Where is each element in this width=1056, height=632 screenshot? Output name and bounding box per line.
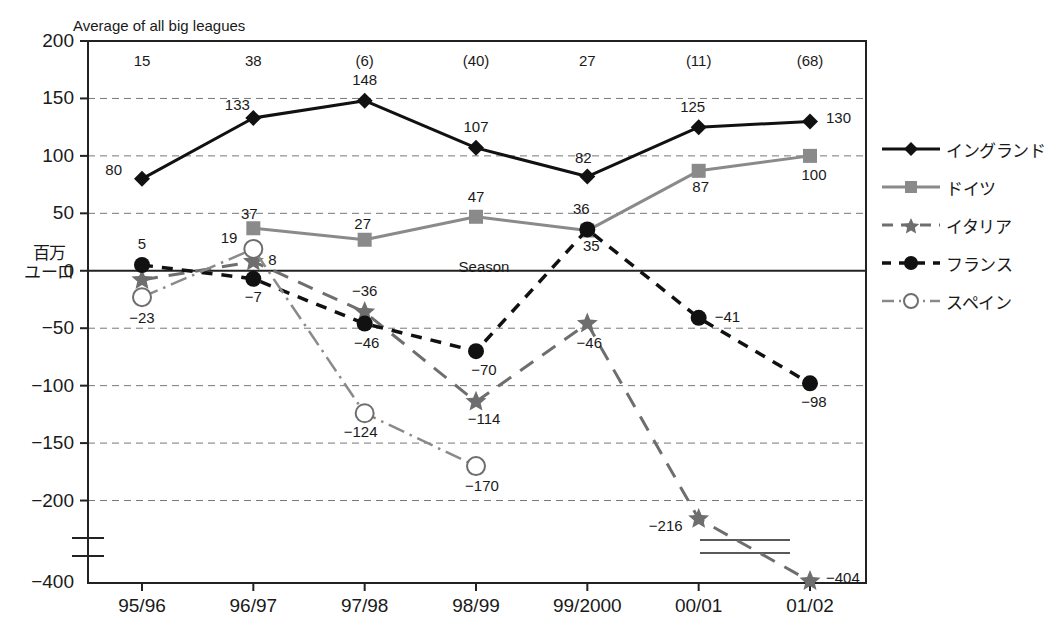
series-line-spain <box>142 249 476 466</box>
data-point-germany <box>692 164 706 178</box>
legend-sample-france <box>880 253 942 273</box>
data-label: −114 <box>468 410 501 427</box>
data-label: 133 <box>225 96 250 113</box>
data-label: −404 <box>826 569 860 586</box>
legend-label-spain: スペイン <box>946 289 1011 314</box>
data-label: 82 <box>575 149 592 166</box>
data-label: 37 <box>241 205 258 222</box>
y-tick-label: 200 <box>42 30 74 51</box>
data-point-spain <box>356 404 374 422</box>
data-point-italy <box>466 391 487 411</box>
legend-item-spain[interactable]: スペイン <box>880 282 1056 320</box>
data-point-england <box>579 169 595 185</box>
data-point-france <box>134 257 150 273</box>
y-axis-label-line1: 百万 <box>14 244 84 263</box>
chart-legend: イングランド ドイツ イタリア フランス <box>880 130 1056 320</box>
data-label: 87 <box>692 178 709 195</box>
data-label: −124 <box>344 423 378 440</box>
data-label: 47 <box>468 188 485 205</box>
y-tick-label: −50 <box>42 317 74 338</box>
legend-label-germany: ドイツ <box>946 175 996 200</box>
series-line-germany <box>253 156 810 240</box>
data-point-france <box>245 271 261 287</box>
data-point-france <box>691 310 707 326</box>
top-row-value: (68) <box>797 52 824 69</box>
data-point-germany <box>469 210 483 224</box>
data-label: 125 <box>680 98 705 115</box>
data-point-spain <box>244 240 262 258</box>
data-label: 5 <box>138 235 146 252</box>
y-axis-label-line2: ユーロ <box>14 263 84 282</box>
legend-sample-germany <box>880 177 942 197</box>
data-point-france <box>579 221 595 237</box>
chart-title: Average of all big leagues <box>73 17 245 34</box>
y-tick-label: −150 <box>31 432 74 453</box>
data-label: −23 <box>129 309 154 326</box>
data-label: −98 <box>801 393 826 410</box>
data-point-france <box>357 316 373 332</box>
x-tick-label: 01/02 <box>786 595 834 616</box>
top-row-value: (40) <box>463 52 490 69</box>
data-label: −46 <box>354 334 379 351</box>
x-tick-label: 95/96 <box>118 595 166 616</box>
data-label: 80 <box>105 161 122 178</box>
legend-item-italy[interactable]: イタリア <box>880 206 1056 244</box>
top-row-value: (6) <box>355 52 373 69</box>
data-label: 148 <box>352 71 377 88</box>
data-point-england <box>468 140 484 156</box>
data-label: −170 <box>465 477 499 494</box>
legend-label-england: イングランド <box>946 137 1045 162</box>
data-label: 130 <box>826 109 851 126</box>
x-tick-label: 96/97 <box>230 595 278 616</box>
data-label: 19 <box>221 229 238 246</box>
legend-item-england[interactable]: イングランド <box>880 130 1056 168</box>
data-point-germany <box>358 233 372 247</box>
y-axis-label: 百万 ユーロ <box>14 244 84 282</box>
data-label: 8 <box>268 251 276 268</box>
y-tick-label: 50 <box>53 202 74 223</box>
legend-sample-england <box>880 139 942 159</box>
data-label: −36 <box>352 282 377 299</box>
data-point-italy <box>577 313 598 333</box>
data-label: 107 <box>463 118 488 135</box>
data-label: −216 <box>649 517 683 534</box>
legend-label-france: フランス <box>946 251 1012 276</box>
legend-label-italy: イタリア <box>946 213 1011 238</box>
y-tick-label: −200 <box>31 490 74 511</box>
legend-sample-spain <box>880 291 942 311</box>
data-point-spain <box>467 457 485 475</box>
x-tick-label: 98/99 <box>452 595 500 616</box>
y-tick-label: 150 <box>42 87 74 108</box>
data-point-italy <box>688 508 709 528</box>
top-row-value: (11) <box>686 52 712 69</box>
y-tick-label: 100 <box>42 145 74 166</box>
x-tick-label: 00/01 <box>675 595 723 616</box>
data-point-england <box>802 113 818 129</box>
legend-sample-italy <box>880 215 942 235</box>
data-point-germany <box>246 221 260 235</box>
data-label: −70 <box>471 361 496 378</box>
top-row-value: 38 <box>245 52 262 69</box>
data-point-germany <box>803 149 817 163</box>
y-tick-label: −100 <box>31 375 74 396</box>
data-label: 27 <box>354 215 371 232</box>
season-annotation: Season <box>459 258 510 275</box>
data-point-france <box>802 375 818 391</box>
data-point-france <box>468 343 484 359</box>
data-label: −7 <box>245 288 262 305</box>
legend-item-france[interactable]: フランス <box>880 244 1056 282</box>
data-point-england <box>134 171 150 187</box>
data-label: 36 <box>573 200 590 217</box>
top-row-value: 15 <box>134 52 151 69</box>
y-tick-label-far: −400 <box>31 571 74 592</box>
top-row-value: 27 <box>579 52 596 69</box>
data-point-england <box>357 93 373 109</box>
data-label: −41 <box>715 308 740 325</box>
data-point-england <box>691 119 707 135</box>
data-label: 100 <box>801 166 826 183</box>
data-point-spain <box>133 288 151 306</box>
data-label: −46 <box>577 334 602 351</box>
x-tick-label: 99/2000 <box>553 595 622 616</box>
legend-item-germany[interactable]: ドイツ <box>880 168 1056 206</box>
x-tick-label: 97/98 <box>341 595 389 616</box>
